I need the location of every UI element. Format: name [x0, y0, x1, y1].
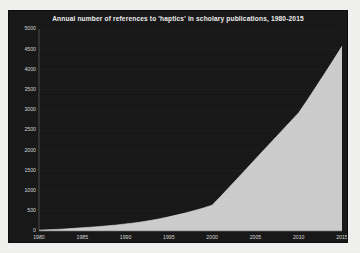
x-tick-label: 2010 [293, 234, 305, 240]
y-tick-label: 0 [33, 227, 36, 233]
x-tick-label: 1980 [33, 234, 45, 240]
x-tick-label: 1995 [163, 234, 175, 240]
chart-panel: Annual number of references to 'haptics'… [8, 10, 348, 243]
y-tick-labels: 0500100015002000250030003500400045005000 [24, 25, 36, 233]
y-tick-label: 4500 [24, 46, 36, 52]
y-tick-label: 3000 [24, 106, 36, 112]
y-tick-label: 1500 [24, 167, 36, 173]
x-tick-labels: 19801985199019952000200520102015 [33, 234, 348, 240]
x-tick-label: 2005 [250, 234, 262, 240]
y-tick-label: 3500 [24, 86, 36, 92]
y-tick-label: 2500 [24, 126, 36, 132]
x-tick-label: 1990 [120, 234, 132, 240]
y-tick-label: 1000 [24, 187, 36, 193]
x-tick-label: 1985 [77, 234, 89, 240]
x-tick-label: 2000 [206, 234, 218, 240]
area-series-fill [39, 46, 342, 231]
screenshot-root: Annual number of references to 'haptics'… [0, 0, 360, 253]
y-tick-label: 2000 [24, 147, 36, 153]
y-tick-label: 5000 [24, 25, 36, 31]
y-tick-label: 4000 [24, 66, 36, 72]
series-group [39, 46, 342, 231]
chart-plot-area: 0500100015002000250030003500400045005000… [9, 11, 348, 243]
y-tick-label: 500 [27, 207, 36, 213]
x-tick-label: 2015 [336, 234, 348, 240]
